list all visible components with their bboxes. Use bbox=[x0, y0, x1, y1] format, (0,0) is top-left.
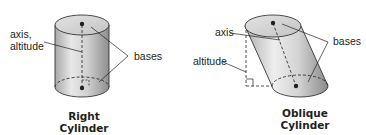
label-axis-oblique: axis bbox=[215, 26, 234, 38]
label-bases-oblique: bases bbox=[333, 35, 361, 47]
oblique-cylinder-bottom-center-dot bbox=[294, 84, 298, 88]
right-cylinder-bottom-center-dot bbox=[80, 86, 84, 90]
right-cylinder: axis, altitude bases Right Cylinder bbox=[10, 15, 162, 134]
caption-oblique-line1: Oblique bbox=[282, 107, 328, 119]
caption-oblique-line2: Cylinder bbox=[280, 119, 330, 131]
label-altitude-oblique: altitude bbox=[193, 55, 227, 67]
oblique-cylinder-top-base bbox=[245, 15, 301, 37]
oblique-cylinder: axis altitude bases Oblique Cylinder bbox=[193, 15, 361, 131]
caption-right-line2: Cylinder bbox=[59, 122, 109, 134]
caption-right-line1: Right bbox=[68, 110, 100, 122]
right-cylinder-top-center-dot bbox=[80, 22, 84, 26]
cylinders-diagram: axis, altitude bases Right Cylinder axis… bbox=[0, 0, 366, 135]
label-bases: bases bbox=[134, 50, 162, 62]
label-axis: axis, bbox=[10, 28, 32, 40]
oblique-right-angle-marker bbox=[246, 79, 253, 86]
oblique-cylinder-top-center-dot bbox=[271, 21, 275, 25]
label-altitude: altitude bbox=[10, 40, 44, 52]
